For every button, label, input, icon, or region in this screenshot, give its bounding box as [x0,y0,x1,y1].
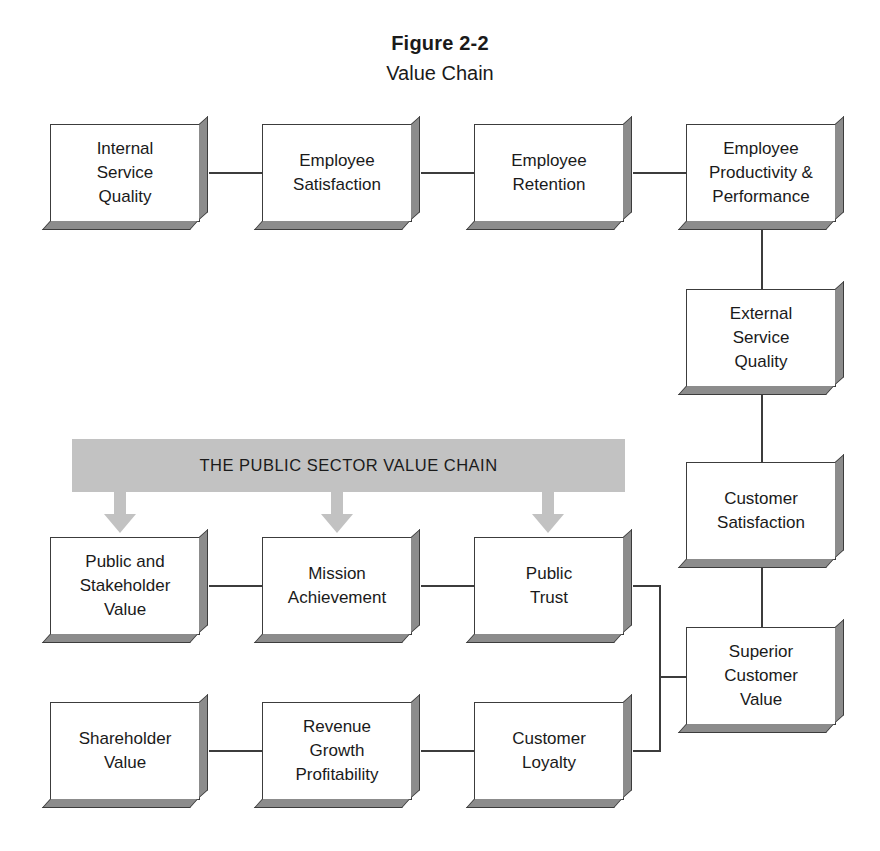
banner-arrow-1 [103,490,137,534]
connector-cs-to-scv [761,560,763,627]
node-label: Superior Customer Value [718,640,804,712]
node-external-service-quality[interactable]: External Service Quality [686,289,836,387]
banner-arrow-3 [531,490,565,534]
connector-isq-to-es [209,172,262,174]
node-label: Customer Satisfaction [711,487,811,535]
node-internal-service-quality[interactable]: Internal Service Quality [50,124,200,222]
connector-es-to-er [421,172,474,174]
value-chain-figure: Figure 2-2 Value Chain THE PUBLIC SECTOR… [0,0,880,851]
node-label: Customer Loyalty [506,727,592,775]
node-label: Revenue Growth Profitability [289,715,384,787]
connector-sv-to-rgp [209,750,262,752]
figure-number: Figure 2-2 [0,30,880,56]
connector-pt-bracket-stub [633,585,661,587]
node-label: Internal Service Quality [91,137,160,209]
node-mission-achievement[interactable]: Mission Achievement [262,537,412,635]
node-shareholder-value[interactable]: Shareholder Value [50,702,200,800]
connector-er-to-ep [633,172,686,174]
node-label: External Service Quality [724,302,798,374]
public-sector-banner-label: THE PUBLIC SECTOR VALUE CHAIN [199,456,497,475]
node-label: Employee Satisfaction [287,149,387,197]
connector-rgp-to-cl [421,750,474,752]
node-public-trust[interactable]: Public Trust [474,537,624,635]
node-superior-customer-value[interactable]: Superior Customer Value [686,627,836,725]
node-customer-loyalty[interactable]: Customer Loyalty [474,702,624,800]
page-title: Value Chain [0,58,880,88]
node-label: Employee Retention [505,149,593,197]
banner-arrow-2 [320,490,354,534]
node-label: Employee Productivity & Performance [703,137,819,209]
connector-cl-bracket-stub [633,750,661,752]
node-employee-productivity-performance[interactable]: Employee Productivity & Performance [686,124,836,222]
node-label: Mission Achievement [282,562,392,610]
node-public-and-stakeholder-value[interactable]: Public and Stakeholder Value [50,537,200,635]
node-label: Public and Stakeholder Value [74,550,177,622]
connector-bracket-to-scv [659,676,686,678]
node-customer-satisfaction[interactable]: Customer Satisfaction [686,462,836,560]
connector-psv-to-ma [209,585,262,587]
connector-ep-to-esq [761,222,763,289]
connector-esq-to-cs [761,387,763,462]
node-revenue-growth-profitability[interactable]: Revenue Growth Profitability [262,702,412,800]
node-label: Public Trust [520,562,578,610]
connector-ma-to-pt [421,585,474,587]
public-sector-banner: THE PUBLIC SECTOR VALUE CHAIN [72,439,625,492]
connector-bracket-spine [659,585,661,751]
node-label: Shareholder Value [73,727,178,775]
figure-title-block: Figure 2-2 Value Chain [0,30,880,88]
node-employee-retention[interactable]: Employee Retention [474,124,624,222]
node-employee-satisfaction[interactable]: Employee Satisfaction [262,124,412,222]
